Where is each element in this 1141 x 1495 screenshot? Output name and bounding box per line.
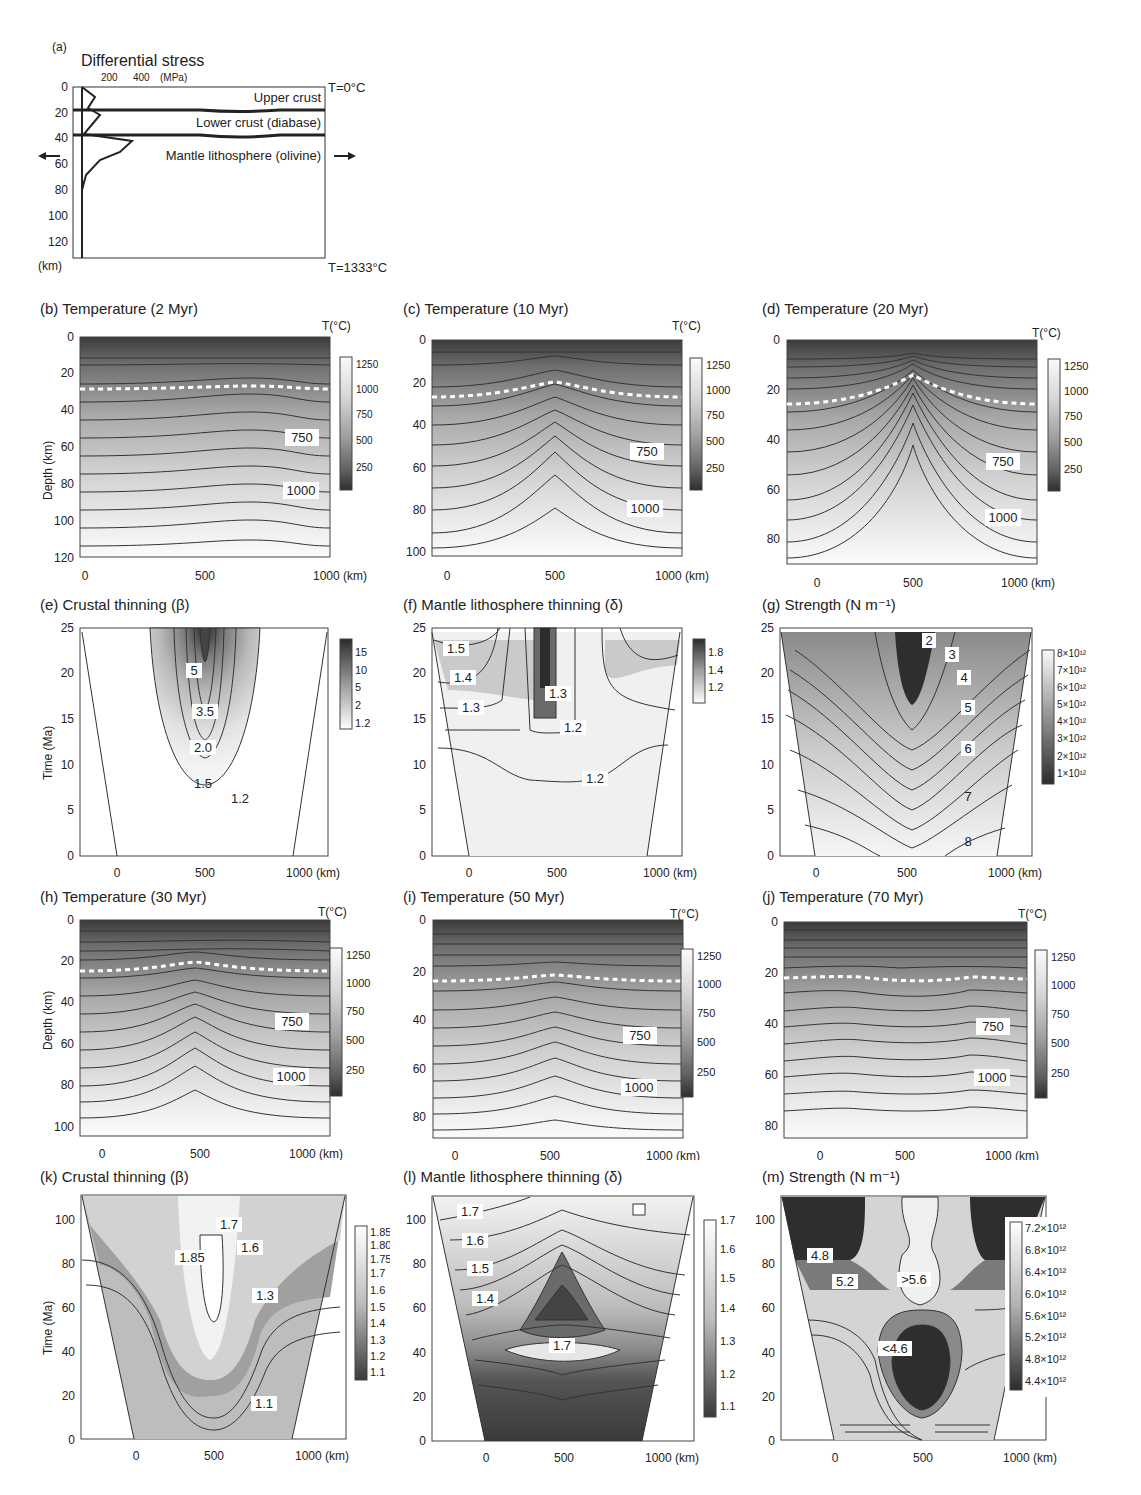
svg-text:1.1: 1.1 — [255, 1396, 273, 1411]
svg-text:1.2: 1.2 — [355, 717, 370, 729]
svg-text:1.75: 1.75 — [370, 1253, 390, 1265]
inset-marker-box — [633, 1204, 645, 1215]
svg-text:750: 750 — [629, 1028, 651, 1043]
svg-text:500: 500 — [697, 1036, 715, 1048]
strength-plot-m: 4.8 5.2 >5.6 <4.6 0 20 40 60 80 100 0 50… — [750, 1160, 1141, 1495]
strength-plot-g: 2 3 4 5 6 7 8 0 5 10 15 20 25 0 500 1000… — [750, 590, 1141, 880]
svg-text:1.2: 1.2 — [564, 720, 582, 735]
svg-text:Depth (km): Depth (km) — [41, 991, 55, 1050]
svg-text:750: 750 — [697, 1007, 715, 1019]
svg-text:1250: 1250 — [1051, 951, 1075, 963]
svg-text:250: 250 — [706, 462, 724, 474]
svg-text:4.4×10¹²: 4.4×10¹² — [1025, 1375, 1067, 1387]
svg-text:25: 25 — [61, 621, 75, 635]
svg-text:1.6: 1.6 — [241, 1240, 259, 1255]
svg-text:0: 0 — [768, 1434, 775, 1448]
svg-text:5: 5 — [190, 663, 197, 678]
svg-text:0: 0 — [767, 849, 774, 863]
svg-text:1000: 1000 — [989, 510, 1018, 525]
svg-text:500: 500 — [1051, 1037, 1069, 1049]
svg-text:500: 500 — [195, 569, 215, 583]
svg-text:500: 500 — [190, 1147, 210, 1160]
svg-text:1000 (km): 1000 (km) — [1003, 1451, 1057, 1465]
svg-text:20: 20 — [61, 366, 75, 380]
svg-text:1.3: 1.3 — [720, 1335, 735, 1347]
svg-text:0: 0 — [466, 866, 473, 880]
panel-j: (j) Temperature (70 Myr) 750 1000 0 20 4… — [750, 880, 1141, 1160]
svg-text:1000: 1000 — [1051, 979, 1075, 991]
svg-text:10: 10 — [413, 758, 427, 772]
svg-text:40: 40 — [413, 418, 427, 432]
svg-text:1250: 1250 — [697, 950, 721, 962]
svg-text:120: 120 — [54, 551, 74, 565]
svg-text:Upper crust: Upper crust — [254, 90, 322, 105]
svg-text:1.85: 1.85 — [179, 1250, 204, 1265]
svg-text:750: 750 — [992, 454, 1014, 469]
svg-text:5.2×10¹²: 5.2×10¹² — [1025, 1331, 1067, 1343]
svg-text:1.6: 1.6 — [466, 1233, 484, 1248]
svg-text:1.3: 1.3 — [256, 1288, 274, 1303]
svg-text:2×10¹²: 2×10¹² — [1057, 751, 1087, 762]
svg-text:6.0×10¹²: 6.0×10¹² — [1025, 1288, 1067, 1300]
svg-text:80: 80 — [62, 1257, 76, 1271]
svg-text:60: 60 — [413, 1062, 427, 1076]
svg-text:1000: 1000 — [346, 977, 370, 989]
svg-text:Time (Ma): Time (Ma) — [41, 1301, 55, 1355]
svg-text:T(°C): T(°C) — [1018, 907, 1047, 921]
svg-text:750: 750 — [1051, 1008, 1069, 1020]
svg-text:500: 500 — [895, 1149, 915, 1160]
svg-text:1250: 1250 — [1064, 360, 1088, 372]
extension-arrow-right-icon — [334, 152, 356, 160]
svg-text:1.3: 1.3 — [462, 700, 480, 715]
svg-text:25: 25 — [761, 621, 775, 635]
svg-text:2: 2 — [925, 633, 932, 648]
svg-text:40: 40 — [55, 131, 69, 145]
svg-text:1.6: 1.6 — [720, 1243, 735, 1255]
panel-a: (a) Differential stress 200 400 (MPa) 0 … — [0, 0, 420, 285]
svg-text:T=0°C: T=0°C — [328, 80, 365, 95]
svg-text:0: 0 — [483, 1451, 490, 1465]
crustal-thinning-plot-e: 5 3.5 2.0 1.5 1.2 0 5 10 15 20 25 Time (… — [0, 590, 390, 880]
svg-text:1.3: 1.3 — [370, 1334, 385, 1346]
svg-text:0: 0 — [452, 1149, 459, 1160]
svg-text:60: 60 — [61, 440, 75, 454]
svg-text:250: 250 — [1064, 463, 1082, 475]
svg-text:0: 0 — [444, 569, 451, 583]
svg-text:750: 750 — [706, 409, 724, 421]
svg-text:6.8×10¹²: 6.8×10¹² — [1025, 1244, 1067, 1256]
svg-text:1.7: 1.7 — [720, 1214, 735, 1226]
svg-text:250: 250 — [697, 1066, 715, 1078]
mantle-thinning-plot-l: 1.7 1.6 1.5 1.4 1.7 0 20 40 60 80 100 0 … — [390, 1160, 750, 1495]
svg-text:1.2: 1.2 — [586, 771, 604, 786]
svg-text:80: 80 — [55, 183, 69, 197]
temperature-plot-j: 750 1000 0 20 40 60 80 0 500 1000 (km) T… — [750, 880, 1141, 1160]
svg-text:1000: 1000 — [287, 483, 316, 498]
temperature-plot-h: 750 1000 0 20 40 60 80 100 Depth (km) 0 … — [0, 880, 390, 1160]
svg-text:40: 40 — [413, 1346, 427, 1360]
svg-text:500: 500 — [903, 576, 923, 590]
svg-text:80: 80 — [762, 1257, 776, 1271]
svg-text:1.4: 1.4 — [720, 1302, 735, 1314]
svg-text:1.5: 1.5 — [720, 1272, 735, 1284]
svg-text:5.6×10¹²: 5.6×10¹² — [1025, 1310, 1067, 1322]
svg-text:5×10¹²: 5×10¹² — [1057, 699, 1087, 710]
svg-text:0: 0 — [68, 1433, 75, 1447]
svg-text:20: 20 — [767, 383, 781, 397]
panel-k: (k) Crustal thinning (β) 1.7 1.6 1.85 1.… — [0, 1160, 390, 1495]
temperature-plot-i: 750 1000 0 20 40 60 80 0 500 1000 (km) T… — [390, 880, 750, 1160]
svg-text:0: 0 — [832, 1451, 839, 1465]
svg-text:100: 100 — [755, 1213, 775, 1227]
svg-text:T(°C): T(°C) — [1032, 326, 1061, 340]
svg-text:500: 500 — [554, 1451, 574, 1465]
svg-text:80: 80 — [61, 1078, 75, 1092]
svg-text:1000: 1000 — [978, 1070, 1007, 1085]
panel-c: (c) Temperature (10 Myr) 750 1000 0 20 4… — [390, 290, 750, 590]
svg-text:120: 120 — [48, 235, 68, 249]
svg-text:100: 100 — [54, 1120, 74, 1134]
svg-text:40: 40 — [762, 1346, 776, 1360]
svg-text:20: 20 — [61, 954, 75, 968]
svg-text:1.2: 1.2 — [708, 681, 723, 693]
svg-text:T(°C): T(°C) — [322, 319, 351, 333]
svg-text:500: 500 — [540, 1149, 560, 1160]
svg-text:60: 60 — [61, 1037, 75, 1051]
